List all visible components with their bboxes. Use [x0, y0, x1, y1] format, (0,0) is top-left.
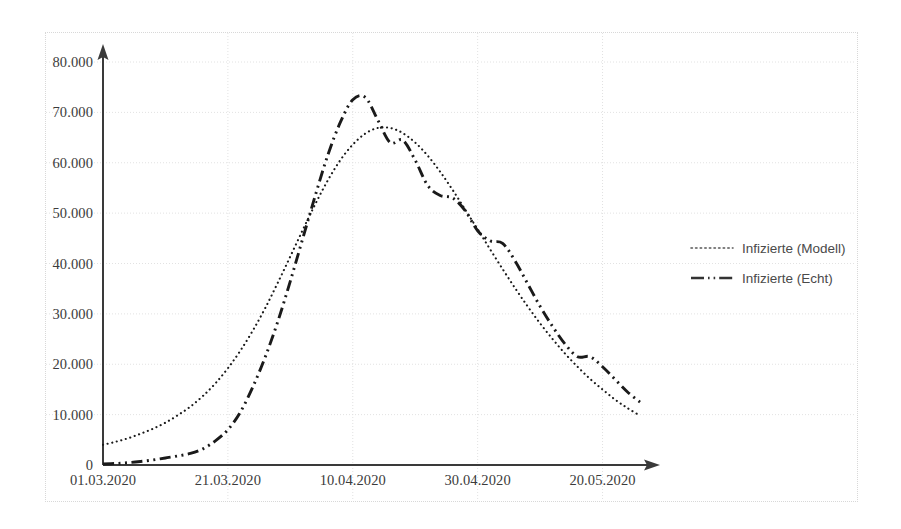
axes	[98, 44, 661, 471]
y-axis-tick-label: 70.000	[0, 104, 93, 121]
chart-legend: Infizierte (Modell) Infizierte (Echt)	[690, 233, 890, 293]
x-axis-tick-label: 01.03.2020	[70, 472, 136, 489]
y-axis-tick-label: 60.000	[0, 154, 93, 171]
series-line-real	[103, 95, 640, 464]
x-axis-tick-label: 21.03.2020	[195, 472, 261, 489]
series-line-model	[103, 127, 640, 445]
legend-label-model: Infizierte (Modell)	[742, 241, 846, 256]
y-axis-tick-label: 80.000	[0, 54, 93, 71]
y-axis-tick-label: 50.000	[0, 205, 93, 222]
legend-label-real: Infizierte (Echt)	[742, 271, 833, 286]
x-axis-tick-label: 30.04.2020	[445, 472, 511, 489]
chart-figure: 010.00020.00030.00040.00050.00060.00070.…	[0, 0, 901, 529]
x-axis-tick-label: 10.04.2020	[320, 472, 386, 489]
y-axis-tick-label: 20.000	[0, 356, 93, 373]
y-axis-tick-label: 0	[0, 457, 93, 474]
x-axis-tick-label: 20.05.2020	[569, 472, 635, 489]
legend-swatch-dashdot	[690, 272, 734, 284]
legend-swatch-dotted	[690, 242, 734, 254]
data-series-group	[103, 95, 640, 464]
y-axis-tick-label: 30.000	[0, 305, 93, 322]
y-axis-tick-label: 40.000	[0, 255, 93, 272]
legend-item-model: Infizierte (Modell)	[690, 233, 890, 263]
y-axis-tick-label: 10.000	[0, 406, 93, 423]
legend-item-real: Infizierte (Echt)	[690, 263, 890, 293]
